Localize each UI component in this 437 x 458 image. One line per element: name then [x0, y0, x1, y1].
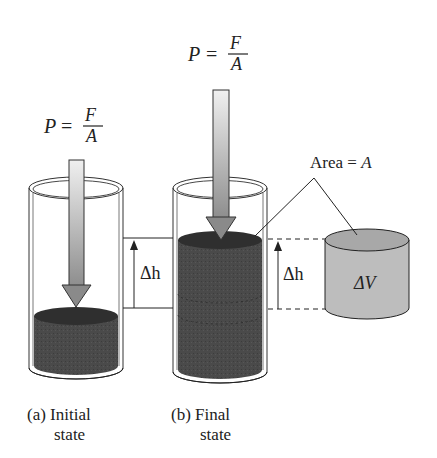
- caption-b-line1: (b) Final: [171, 405, 230, 424]
- pressure-symbol: P: [187, 43, 200, 65]
- volume-change-cylinder: ΔV: [325, 229, 409, 319]
- arrowhead-up-icon: [274, 241, 282, 251]
- hydraulic-compression-diagram: P = F A P = F: [0, 0, 437, 458]
- panel-a-initial: P = F A: [29, 105, 123, 379]
- height-change-bracket-right: Δh: [268, 239, 326, 309]
- volume-top-surface: [325, 229, 409, 251]
- panel-b-final: P = F A: [173, 33, 267, 383]
- caption-b: (b) Final state: [171, 405, 231, 444]
- force-symbol: F: [84, 105, 97, 125]
- force-symbol: F: [229, 33, 242, 53]
- area-label: Area = A: [310, 153, 372, 172]
- arrowhead-up-icon: [130, 240, 138, 250]
- pressure-symbol: P: [43, 115, 56, 137]
- pressure-formula-b: P = F A: [187, 33, 248, 74]
- delta-h-label: Δh: [140, 263, 161, 283]
- pressure-formula-a: P = F A: [43, 105, 103, 146]
- height-change-bracket-left: Δh: [123, 238, 173, 308]
- force-arrow-b: [206, 90, 236, 240]
- fluid-surface-a: [34, 307, 118, 325]
- area-symbol: A: [85, 126, 98, 146]
- leader-line-to-volume: [314, 178, 357, 235]
- area-symbol: A: [230, 54, 243, 74]
- caption-a-line2: state: [54, 425, 85, 444]
- area-callout: Area = A: [255, 153, 372, 236]
- delta-h-label: Δh: [283, 264, 304, 284]
- caption-a-line1: (a) Initial: [27, 405, 91, 424]
- delta-v-label: ΔV: [353, 273, 378, 293]
- caption-b-line2: state: [200, 425, 231, 444]
- fluid-column-b: [178, 240, 262, 379]
- equals-sign: =: [206, 43, 217, 65]
- caption-a: (a) Initial state: [27, 405, 91, 444]
- equals-sign: =: [61, 115, 72, 137]
